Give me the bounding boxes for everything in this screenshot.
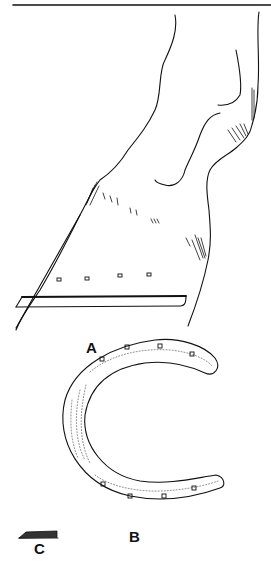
hoof-illustration	[0, 0, 271, 561]
panel-label-b: B	[129, 528, 140, 545]
panel-label-a: A	[86, 339, 97, 356]
panel-a-drawing	[16, 12, 259, 330]
panel-b-drawing	[63, 339, 224, 499]
panel-label-c: C	[34, 540, 45, 557]
panel-c-drawing	[19, 531, 58, 538]
